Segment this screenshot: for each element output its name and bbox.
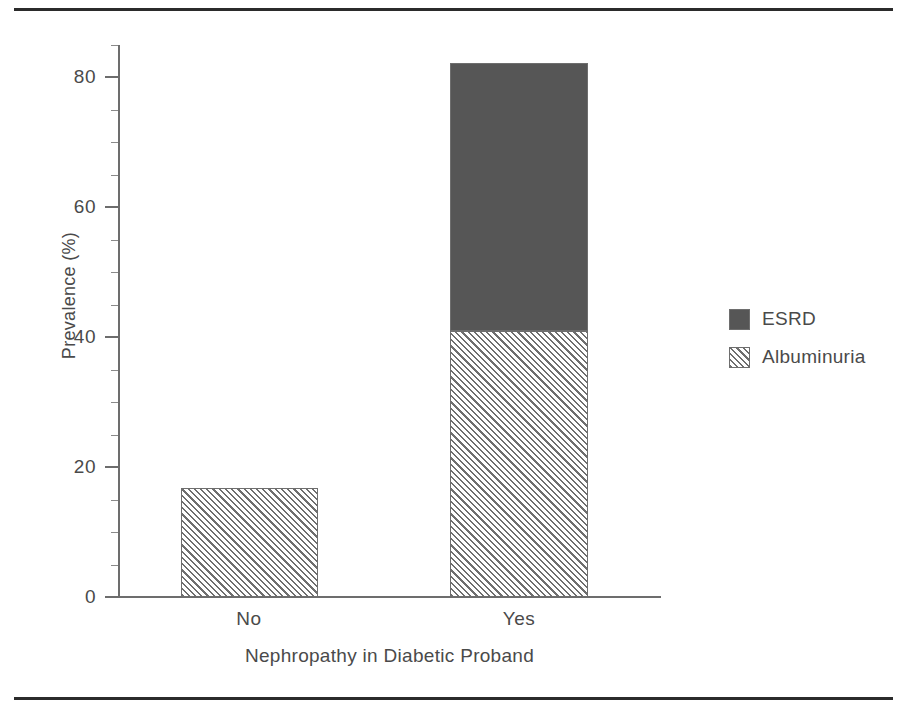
y-tick-minor-15 [111,500,118,501]
y-tick-minor-10 [111,532,118,533]
hatched-gray-swatch [729,347,750,368]
y-tick-minor-5 [111,565,118,566]
y-tick-minor-30 [111,402,118,403]
y-tick-minor-85 [111,45,118,46]
y-tick-minor-70 [111,142,118,143]
legend-item-esrd[interactable]: ESRD [729,303,899,335]
y-tick-major-40 [105,336,118,338]
y-tick-minor-45 [111,305,118,306]
y-tick-minor-65 [111,175,118,176]
legend-label-esrd: ESRD [762,308,816,330]
y-tick-label-20: 20 [52,457,96,476]
chart-figure: Prevalence (%) 020406080 NoYes Nephropat… [0,0,907,712]
y-tick-minor-75 [111,110,118,111]
bar-segment-yes-albuminuria[interactable] [450,331,588,597]
bar-yes[interactable] [450,63,588,597]
y-tick-major-0 [105,596,118,598]
legend-item-albuminuria[interactable]: Albuminuria [729,341,899,373]
chart-legend: ESRDAlbuminuria [729,303,899,379]
y-tick-label-0: 0 [52,587,96,606]
plot-area [119,45,660,597]
y-tick-label-80: 80 [52,67,96,86]
solid-dark-gray-swatch [729,309,750,330]
y-tick-minor-50 [111,272,118,273]
y-tick-minor-55 [111,240,118,241]
y-tick-major-20 [105,466,118,468]
y-tick-major-60 [105,206,118,208]
x-tick-label-no: No [189,608,309,630]
legend-label-albuminuria: Albuminuria [762,346,866,368]
y-tick-minor-35 [111,370,118,371]
y-axis-title: Prevalence (%) [59,196,80,396]
bar-segment-no-albuminuria[interactable] [181,488,318,597]
y-tick-label-60: 60 [52,197,96,216]
bar-no[interactable] [181,488,318,597]
bar-segment-yes-esrd[interactable] [450,63,588,331]
y-tick-minor-25 [111,435,118,436]
x-axis-title: Nephropathy in Diabetic Proband [119,645,660,667]
y-tick-label-40: 40 [52,327,96,346]
x-tick-label-yes: Yes [459,608,579,630]
y-tick-major-80 [105,76,118,78]
